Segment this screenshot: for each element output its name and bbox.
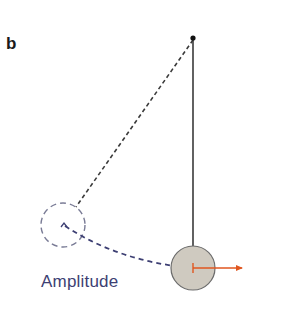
displaced-string-dashed-line: [76, 40, 193, 207]
pendulum-diagram: [0, 0, 287, 309]
pivot-point: [190, 35, 195, 40]
amplitude-label: Amplitude: [41, 272, 118, 292]
